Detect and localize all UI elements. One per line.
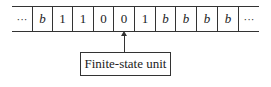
tape-cell: b <box>196 6 217 32</box>
finite-state-unit-label: Finite-state unit <box>85 56 167 72</box>
tape-cell: 1 <box>52 6 72 32</box>
cell-symbol: ··· <box>17 13 28 25</box>
tape-cell: b <box>32 6 52 32</box>
cell-symbol: b <box>225 11 232 27</box>
tape-cell-head: 0 <box>113 6 134 32</box>
cell-symbol: 1 <box>59 11 66 27</box>
cell-symbol: ··· <box>244 13 255 25</box>
tape-cell: b <box>175 6 196 32</box>
cell-symbol: b <box>162 11 169 27</box>
arrow-shaft <box>124 34 125 52</box>
tape-cell: 1 <box>134 6 155 32</box>
cell-symbol: 0 <box>121 11 128 27</box>
finite-state-unit-box: Finite-state unit <box>80 52 171 76</box>
tape-cell: 0 <box>93 6 113 32</box>
tape-cell: 1 <box>72 6 93 32</box>
cell-symbol: 1 <box>142 11 149 27</box>
tape-cell: b <box>155 6 175 32</box>
cell-symbol: 0 <box>100 11 107 27</box>
tape-cell-ellipsis-right: ··· <box>238 6 259 32</box>
cell-symbol: 1 <box>80 11 87 27</box>
cell-symbol: b <box>39 11 46 27</box>
cell-symbol: b <box>183 11 190 27</box>
tape-cell: b <box>217 6 238 32</box>
cell-symbol: b <box>204 11 211 27</box>
tape-cell-ellipsis-left: ··· <box>12 6 32 32</box>
